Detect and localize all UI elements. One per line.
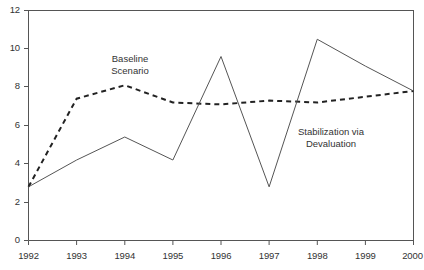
y-tick-label-12: 12 (0, 4, 20, 15)
baseline-annotation-line1: Baseline (98, 53, 162, 65)
x-tick-label-1996: 1996 (201, 250, 241, 261)
y-tick-label-4: 4 (0, 157, 20, 168)
x-tick-label-1994: 1994 (105, 250, 145, 261)
x-tick-label-2000: 2000 (393, 250, 424, 261)
baseline-annotation-line2: Scenario (98, 65, 162, 77)
y-tick-label-2: 2 (0, 196, 20, 207)
x-tick-marks (29, 241, 414, 246)
x-tick-label-1998: 1998 (297, 250, 337, 261)
series-layer (29, 39, 414, 187)
stabilization-annotation: Stabilization via Devaluation (280, 126, 382, 150)
x-tick-label-1997: 1997 (249, 250, 289, 261)
y-tick-label-8: 8 (0, 80, 20, 91)
series-line-stabilization-via-devaluation (29, 39, 414, 187)
stabilization-annotation-line2: Devaluation (280, 138, 382, 150)
chart-container: 12 10 8 6 4 2 0 1992 1993 1994 1995 1996… (0, 0, 424, 270)
y-tick-label-10: 10 (0, 42, 20, 53)
x-tick-label-1993: 1993 (57, 250, 97, 261)
y-tick-label-6: 6 (0, 119, 20, 130)
x-tick-label-1992: 1992 (9, 250, 49, 261)
x-tick-label-1999: 1999 (345, 250, 385, 261)
baseline-scenario-annotation: Baseline Scenario (98, 53, 162, 77)
y-tick-marks (24, 11, 29, 241)
x-tick-label-1995: 1995 (153, 250, 193, 261)
stabilization-annotation-line1: Stabilization via (280, 126, 382, 138)
y-tick-label-0: 0 (0, 234, 20, 245)
